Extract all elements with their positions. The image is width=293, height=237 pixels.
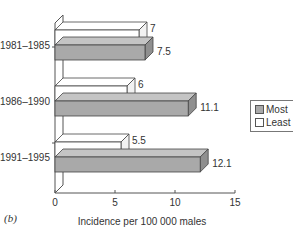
- bar: [55, 45, 145, 60]
- category-label: 1981–1985: [0, 40, 50, 51]
- legend-label-least: Least: [266, 116, 290, 129]
- bar: [55, 157, 200, 172]
- legend-swatch-most: [255, 105, 264, 114]
- figure-caption: (b): [4, 212, 17, 224]
- value-label-most: 12.1: [212, 158, 232, 169]
- legend: Most Least: [250, 100, 293, 132]
- value-label-most: 7.5: [157, 46, 171, 57]
- x-tick-label: 10: [169, 197, 181, 208]
- value-label-least: 5.5: [132, 135, 146, 146]
- category-label: 1986–1990: [0, 96, 50, 107]
- x-tick-label: 0: [52, 197, 58, 208]
- x-tick-label: 5: [112, 197, 118, 208]
- legend-swatch-least: [255, 118, 264, 127]
- value-label-most: 11.1: [200, 102, 219, 113]
- legend-item-least: Least: [255, 116, 290, 129]
- x-tick-label: 15: [229, 197, 241, 208]
- value-label-least: 7: [150, 23, 156, 34]
- category-label: 1991–1995: [0, 152, 50, 163]
- x-axis-title: Incidence per 100 000 males: [78, 216, 206, 227]
- legend-label-most: Most: [266, 103, 288, 116]
- value-label-least: 6: [138, 79, 144, 90]
- bar: [55, 101, 188, 116]
- legend-item-most: Most: [255, 103, 290, 116]
